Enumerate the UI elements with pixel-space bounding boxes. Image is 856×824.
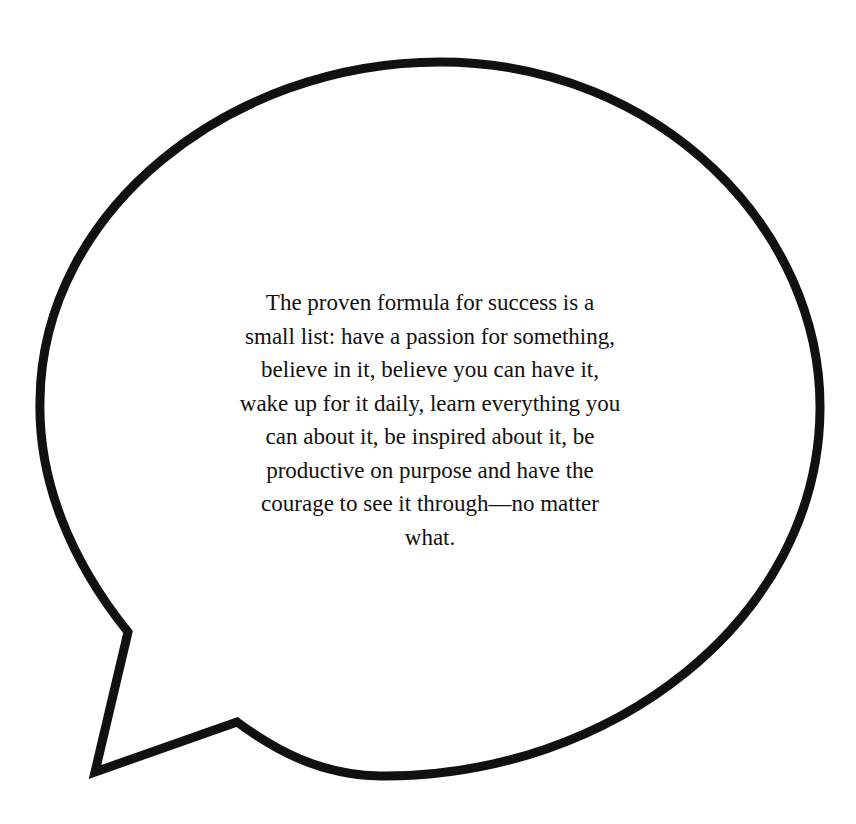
quote-text: The proven formula for success is a smal… [175, 286, 685, 554]
quote-line: small list: have a passion for something… [175, 320, 685, 354]
quote-line: wake up for it daily, learn everything y… [175, 387, 685, 421]
quote-line: believe in it, believe you can have it, [175, 353, 685, 387]
quote-line: can about it, be inspired about it, be [175, 420, 685, 454]
quote-line: The proven formula for success is a [175, 286, 685, 320]
quote-line: what. [175, 521, 685, 555]
quote-line: courage to see it through—no matter [175, 487, 685, 521]
quote-line: productive on purpose and have the [175, 454, 685, 488]
